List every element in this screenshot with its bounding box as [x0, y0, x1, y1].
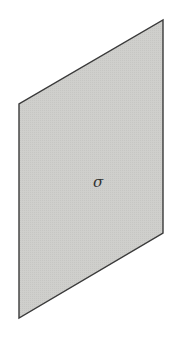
plane-sigma — [19, 20, 163, 318]
plane-diagram: σ — [0, 0, 182, 339]
plane-label: σ — [93, 173, 104, 191]
